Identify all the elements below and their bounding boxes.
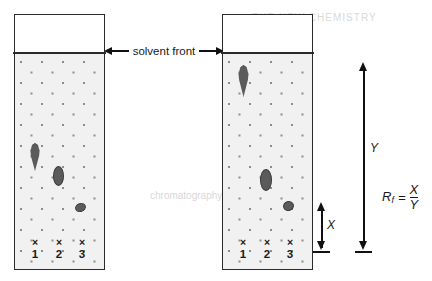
- arrow-head-left-icon: [104, 47, 112, 55]
- left-plate-spot-lane2: [53, 166, 64, 186]
- left-plate: × 1 × 2 × 3: [14, 14, 105, 270]
- measurement-x-label: X: [327, 218, 335, 232]
- solvent-front-label: solvent front: [129, 45, 200, 57]
- solvent-front-leader-left: [112, 50, 129, 52]
- rf-symbol: Rf: [382, 189, 394, 205]
- arrow-head-down-icon: [317, 241, 325, 250]
- origin-lane-number: 1: [232, 249, 254, 261]
- rf-fraction: X Y: [410, 183, 419, 212]
- diagram-canvas: THE NEW CHEMISTRY chromatography × 1 × 2…: [0, 0, 432, 281]
- arrow-head-down-icon: [359, 241, 367, 250]
- right-plate: × 1 × 2 × 3: [222, 14, 313, 270]
- right-plate-spot-lane2: [260, 169, 272, 191]
- right-plate-origin-lane2: × 2: [256, 237, 278, 260]
- measurement-y-baseline-tick: [355, 251, 372, 253]
- origin-x-mark-icon: ×: [256, 237, 278, 248]
- origin-x-mark-icon: ×: [279, 237, 301, 248]
- origin-lane-number: 1: [24, 249, 46, 261]
- left-plate-origin-lane2: × 2: [48, 237, 70, 260]
- origin-x-mark-icon: ×: [24, 237, 46, 248]
- right-plate-origin-lane1: × 1: [232, 237, 254, 260]
- origin-lane-number: 2: [256, 249, 278, 261]
- solvent-front-leader-right: [199, 50, 216, 52]
- measurement-y-label: Y: [370, 141, 378, 155]
- fraction-numerator: X: [410, 183, 419, 197]
- page-bleed-text-mid: chromatography: [150, 190, 222, 201]
- measurement-y-shaft: [363, 70, 365, 241]
- origin-x-mark-icon: ×: [232, 237, 254, 248]
- solvent-front-callout: solvent front: [104, 44, 224, 58]
- right-plate-origin-lane3: × 3: [279, 237, 301, 260]
- rf-subscript: f: [391, 196, 394, 206]
- measurement-x-baseline-tick: [313, 251, 330, 253]
- origin-x-mark-icon: ×: [48, 237, 70, 248]
- origin-x-mark-icon: ×: [71, 237, 93, 248]
- origin-lane-number: 3: [279, 249, 301, 261]
- fraction-denominator: Y: [410, 197, 419, 212]
- origin-lane-number: 2: [48, 249, 70, 261]
- left-plate-origin-lane3: × 3: [71, 237, 93, 260]
- equals-sign: =: [398, 190, 406, 205]
- origin-lane-number: 3: [71, 249, 93, 261]
- left-plate-solvent-headspace: [15, 15, 104, 52]
- left-plate-origin-lane1: × 1: [24, 237, 46, 260]
- right-plate-solvent-headspace: [223, 15, 312, 52]
- rf-formula: Rf = X Y: [382, 183, 418, 212]
